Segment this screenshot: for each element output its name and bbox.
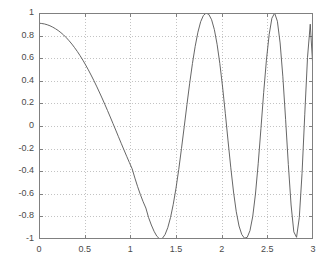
x-tick-label: 3 <box>310 245 315 254</box>
x-tick-label: 1.5 <box>170 245 183 254</box>
x-tick-label: 1 <box>128 245 133 254</box>
chart-figure: 10.80.60.40.20-0.2-0.4-0.6-0.8-1 00.511.… <box>0 0 328 265</box>
x-tick-label: 0 <box>36 245 41 254</box>
x-tick-label: 2.5 <box>261 245 274 254</box>
x-axis-tick-labels: 00.511.522.53 <box>0 0 328 265</box>
x-tick-label: 0.5 <box>78 245 91 254</box>
x-tick-label: 2 <box>219 245 224 254</box>
